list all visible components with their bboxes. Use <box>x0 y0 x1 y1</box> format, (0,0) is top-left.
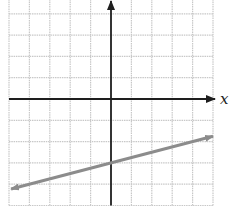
axes <box>9 1 215 206</box>
x-axis-label: x <box>220 90 229 108</box>
coordinate-plane: x <box>0 0 229 220</box>
